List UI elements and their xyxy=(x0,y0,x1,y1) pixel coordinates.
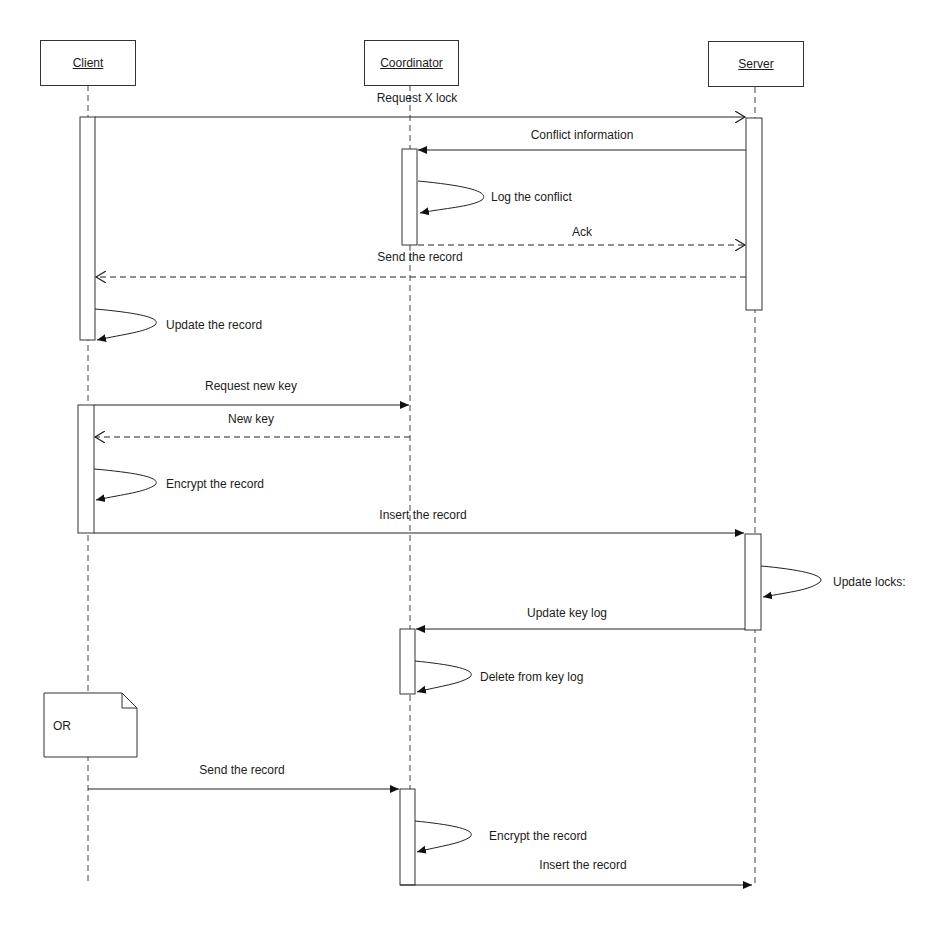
label-encrypt-the-record-client: Encrypt the record xyxy=(166,477,264,491)
label-request-new-key: Request new key xyxy=(205,379,297,393)
server-activation-1 xyxy=(746,118,762,310)
self-msg-delete-from-key-log xyxy=(415,661,471,692)
participant-server-label: Server xyxy=(738,57,773,71)
label-conflict-information: Conflict information xyxy=(531,128,634,142)
participant-server: Server xyxy=(708,41,804,87)
coordinator-activation-2 xyxy=(400,629,415,694)
label-delete-from-key-log: Delete from key log xyxy=(480,670,583,684)
label-update-key-log: Update key log xyxy=(527,606,607,620)
self-msg-update-the-record xyxy=(95,309,156,340)
note-or-label: OR xyxy=(53,719,71,733)
client-activation-2 xyxy=(78,405,94,533)
label-send-the-record-2: Send the record xyxy=(199,763,284,777)
label-encrypt-the-record-coordinator: Encrypt the record xyxy=(489,829,587,843)
label-request-x-lock: Request X lock xyxy=(377,91,458,105)
label-insert-the-record-2: Insert the record xyxy=(539,858,626,872)
server-activation-2 xyxy=(745,534,761,630)
self-msg-encrypt-the-record-coordinator xyxy=(415,821,471,852)
self-msg-update-locks xyxy=(761,566,821,597)
coordinator-activation-1 xyxy=(402,149,417,245)
label-log-the-conflict: Log the conflict xyxy=(491,190,572,204)
label-ack: Ack xyxy=(572,225,592,239)
label-insert-the-record-1: Insert the record xyxy=(379,508,466,522)
participant-client-label: Client xyxy=(73,56,104,70)
label-update-locks: Update locks: xyxy=(833,575,906,589)
self-msg-encrypt-the-record-client xyxy=(94,469,156,500)
participant-coordinator-label: Coordinator xyxy=(380,56,443,70)
label-update-the-record: Update the record xyxy=(166,318,262,332)
self-msg-log-the-conflict xyxy=(418,181,484,213)
participant-client: Client xyxy=(40,40,136,86)
label-send-the-record-1: Send the record xyxy=(377,250,462,264)
sequence-diagram-canvas xyxy=(0,0,949,929)
label-new-key: New key xyxy=(228,412,274,426)
coordinator-activation-3 xyxy=(400,789,415,885)
participant-coordinator: Coordinator xyxy=(364,40,459,86)
client-activation-1 xyxy=(80,117,95,340)
